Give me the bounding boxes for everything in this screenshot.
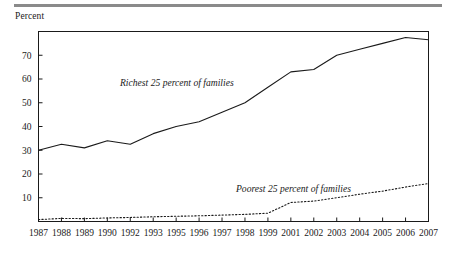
x-tick-label: 2001 xyxy=(281,228,300,238)
y-tick-label: 70 xyxy=(22,51,32,61)
series-annotation-poorest: Poorest 25 percent of families xyxy=(235,183,351,194)
x-tick-label: 1999 xyxy=(258,228,277,238)
x-tick-label: 1989 xyxy=(75,228,94,238)
x-tick-label: 2007 xyxy=(419,228,438,238)
x-tick-label: 1995 xyxy=(167,228,186,238)
x-axis-tick-labels: 1987198819891990199219931995199619971998… xyxy=(29,228,438,238)
x-tick-label: 2003 xyxy=(327,228,346,238)
chart-figure: Percent 10203040506070 19871988198919901… xyxy=(0,0,449,253)
x-tick-label: 2002 xyxy=(304,228,323,238)
x-tick-label: 1998 xyxy=(235,228,254,238)
y-tick-label: 50 xyxy=(22,98,32,108)
y-tick-label: 40 xyxy=(22,122,32,132)
x-tick-label: 1990 xyxy=(98,228,117,238)
y-tick-label: 60 xyxy=(22,74,32,84)
x-tick-label: 1997 xyxy=(213,228,232,238)
x-tick-label: 1996 xyxy=(190,228,209,238)
x-tick-label: 2006 xyxy=(396,228,415,238)
y-tick-label: 20 xyxy=(22,169,32,179)
y-tick-label: 30 xyxy=(22,146,32,156)
y-tick-label: 10 xyxy=(22,193,32,203)
x-tick-label: 2005 xyxy=(373,228,392,238)
x-tick-label: 1993 xyxy=(144,228,163,238)
x-tick-label: 1988 xyxy=(52,228,71,238)
series-annotation-richest: Richest 25 percent of families xyxy=(119,77,234,88)
plot-area: 10203040506070 1987198819891990199219931… xyxy=(0,0,449,253)
x-tick-label: 1987 xyxy=(29,228,48,238)
x-tick-label: 2004 xyxy=(350,228,369,238)
x-tick-label: 1992 xyxy=(121,228,140,238)
